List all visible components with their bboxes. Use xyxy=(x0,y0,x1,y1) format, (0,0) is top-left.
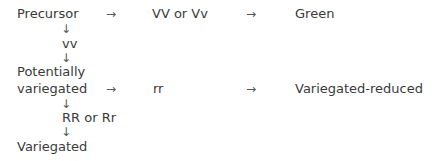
node-green: Green xyxy=(295,6,334,22)
arrow-down-icon: ↓ xyxy=(61,21,71,37)
arrow-down-icon: ↓ xyxy=(61,124,71,140)
arrow-right-icon: → xyxy=(246,81,256,97)
node-precursor: Precursor xyxy=(17,6,78,22)
node-potentially-variegated-line1: Potentially xyxy=(17,64,85,80)
arrow-right-icon: → xyxy=(246,6,256,22)
node-vv-dominant: VV or Vv xyxy=(152,6,208,22)
arrow-right-icon: → xyxy=(106,6,116,22)
node-variegated: Variegated xyxy=(17,139,87,155)
node-rr-recessive: rr xyxy=(153,81,163,97)
arrow-right-icon: → xyxy=(106,81,116,97)
node-potentially-variegated-line2: variegated xyxy=(17,81,87,97)
node-variegated-reduced: Variegated-reduced xyxy=(295,81,423,97)
